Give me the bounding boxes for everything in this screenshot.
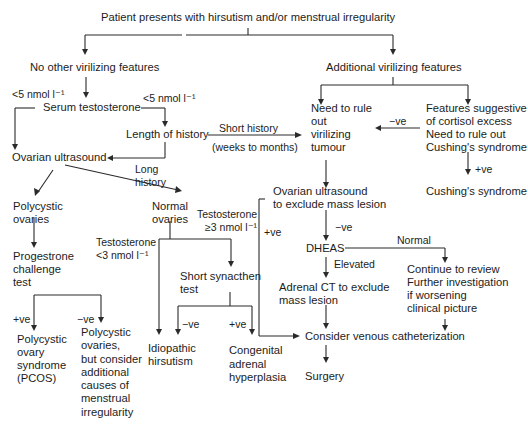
node-short-synacthen: Short synacthen test (180, 270, 261, 296)
node-progestrone-test: Progestrone challenge test (13, 250, 74, 289)
node-polycystic-other-causes: Polycystic ovaries, but consider additio… (81, 326, 142, 419)
node-continue-review: Continue to review Further investigation… (407, 263, 508, 315)
node-serum-testosterone: Serum testosterone (43, 101, 141, 114)
node-normal-ovaries: Normal ovaries (152, 200, 188, 226)
edge-label-pcos-neg: −ve (77, 313, 94, 326)
edge-label-pcos-pos: +ve (13, 313, 30, 326)
edge-label-long-history: Long history (135, 163, 166, 189)
edge-label-ovarian-neg: −ve (335, 221, 352, 234)
node-no-virilizing: No other virilizing features (30, 61, 159, 74)
node-length-history: Length of history (126, 128, 209, 141)
node-patient-presents: Patient presents with hirsutism and/or m… (101, 11, 395, 24)
edge-label-synacthen-pos: +ve (229, 318, 246, 331)
edge-label-synacthen-neg: −ve (182, 318, 199, 331)
edge-label-lt5-right: <5 nmol l⁻¹ (143, 92, 195, 105)
edge-label-testosterone-ge3: Testosterone ≥3 nmol l⁻¹ (197, 208, 257, 234)
edge-label-short-history: Short history (219, 122, 278, 135)
edge-label-testosterone-lt3: Testosterone <3 nmol l⁻¹ (96, 236, 156, 262)
node-polycystic-ovaries: Polycystic ovaries (13, 200, 63, 226)
node-ovarian-ultrasound: Ovarian ultrasound (12, 151, 107, 164)
edge-label-elevated: Elevated (334, 258, 375, 271)
node-rule-out-tumour: Need to rule out virilizing tumour (311, 102, 372, 154)
node-ovarian-us-mass: Ovarian ultrasound to exclude mass lesio… (273, 185, 386, 211)
edge-label-weeks-months: (weeks to months) (212, 141, 298, 154)
edge-label-lt5-left: <5 nmol l⁻¹ (12, 88, 64, 101)
node-cortisol-excess: Features suggestive of cortisol excess N… (426, 102, 527, 154)
node-congenital-adrenal-hyperplasia: Congenital adrenal hyperplasia (229, 344, 286, 385)
node-venous-catheterization: Consider venous catheterization (305, 330, 465, 343)
edge-label-normal: Normal (397, 234, 431, 247)
node-cushings-syndrome: Cushing's syndrome (426, 185, 527, 198)
edge-label-ovarian-pos: +ve (264, 226, 281, 239)
edge-label-cushing-pos: +ve (475, 163, 492, 176)
node-surgery: Surgery (305, 370, 344, 383)
node-additional-virilizing: Additional virilizing features (326, 61, 462, 74)
node-adrenal-ct: Adrenal CT to exclude mass lesion (279, 281, 390, 307)
edge-label-cortisol-neg: −ve (389, 115, 406, 128)
node-idiopathic-hirsutism: Idiopathic hirsutism (148, 342, 196, 368)
flowchart-diagram: Patient presents with hirsutism and/or m… (0, 0, 528, 429)
node-dheas: DHEAS (306, 242, 345, 255)
node-pcos: Polycystic ovary syndrome (PCOS) (17, 333, 67, 385)
